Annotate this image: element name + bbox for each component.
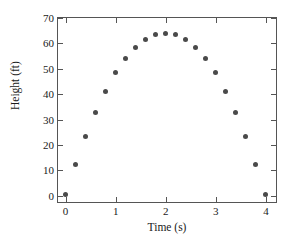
- y-axis-tick: [58, 145, 63, 146]
- y-axis-tick: [271, 170, 276, 171]
- x-axis-tick-label: 4: [263, 206, 269, 217]
- y-axis-tick: [58, 196, 63, 197]
- y-axis-tick-label: 50: [43, 63, 54, 74]
- y-axis-label: Height (ft): [10, 61, 22, 110]
- y-axis-tick: [58, 94, 63, 95]
- x-axis-tick-label: 0: [63, 206, 69, 217]
- x-axis-tick: [66, 197, 67, 202]
- y-axis-tick: [58, 170, 63, 171]
- y-axis-tick: [58, 69, 63, 70]
- y-axis-tick-label: 70: [43, 13, 54, 24]
- x-axis-tick: [216, 18, 217, 23]
- x-axis-tick: [116, 18, 117, 23]
- x-axis-tick: [66, 18, 67, 23]
- data-point: [253, 162, 258, 167]
- data-point: [213, 70, 218, 75]
- data-point: [123, 56, 128, 61]
- data-point: [73, 162, 78, 167]
- x-axis-tick-label: 1: [113, 206, 119, 217]
- data-point: [143, 37, 148, 42]
- x-axis-tick-label: 3: [213, 206, 219, 217]
- y-axis-tick: [271, 43, 276, 44]
- data-point: [233, 110, 238, 115]
- x-axis-tick-label: 2: [163, 206, 169, 217]
- data-point: [193, 45, 198, 50]
- data-point: [83, 134, 88, 139]
- x-axis-tick: [266, 197, 267, 202]
- data-point: [163, 31, 168, 36]
- x-axis-tick: [216, 197, 217, 202]
- data-point: [93, 110, 98, 115]
- y-axis-tick-label: 60: [43, 38, 54, 49]
- y-axis-tick: [271, 18, 276, 19]
- data-point: [223, 89, 228, 94]
- y-axis-tick-label: 10: [43, 165, 54, 176]
- data-point: [203, 56, 208, 61]
- y-axis-tick: [271, 196, 276, 197]
- y-axis-tick-label: 30: [43, 114, 54, 125]
- scatter-chart-figure: 01020304050607001234 Time (s) Height (ft…: [0, 0, 299, 244]
- y-axis-tick: [271, 69, 276, 70]
- x-axis-tick: [166, 197, 167, 202]
- y-axis-tick: [58, 120, 63, 121]
- data-point: [103, 89, 108, 94]
- data-point: [263, 192, 268, 197]
- y-axis-tick-label: 20: [43, 139, 54, 150]
- data-point: [243, 134, 248, 139]
- x-axis-tick: [166, 18, 167, 23]
- y-axis-tick: [271, 145, 276, 146]
- y-axis-tick: [271, 94, 276, 95]
- y-axis-tick: [58, 43, 63, 44]
- x-axis-label: Time (s): [57, 222, 277, 234]
- x-axis-tick: [116, 197, 117, 202]
- data-point: [173, 32, 178, 37]
- data-point: [153, 32, 158, 37]
- y-axis-tick-label: 40: [43, 89, 54, 100]
- data-point: [113, 70, 118, 75]
- data-point: [133, 45, 138, 50]
- x-axis-tick: [266, 18, 267, 23]
- y-axis-tick: [58, 18, 63, 19]
- plot-area: 01020304050607001234: [57, 17, 277, 203]
- y-axis-tick: [271, 120, 276, 121]
- y-axis-tick-label: 0: [49, 190, 55, 201]
- data-point: [183, 37, 188, 42]
- data-point: [63, 192, 68, 197]
